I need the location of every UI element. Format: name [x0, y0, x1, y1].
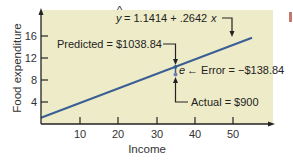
error-symbol: e [179, 64, 185, 76]
x-tick-label: 50 [227, 128, 239, 140]
x-tick-label: 20 [112, 128, 124, 140]
y-tick-label: 12 [25, 52, 37, 64]
predicted-point [174, 65, 178, 69]
x-tick-label: 10 [74, 128, 86, 140]
actual-label: Actual = $900 [191, 96, 259, 108]
equation-x: x [210, 12, 217, 24]
chart: 16 12 8 4 10 20 30 40 50 Income Food exp… [0, 0, 293, 161]
actual-point [174, 73, 178, 77]
y-tick-label: 4 [31, 96, 37, 108]
x-tick-label: 40 [189, 128, 201, 140]
error-label: ← Error = −$138.84 [187, 64, 284, 76]
y-axis-title: Food expenditure [11, 23, 23, 113]
equation-text: = 1.1414 + .2642 [124, 12, 207, 24]
edge-mark [289, 12, 292, 22]
x-axis-title: Income [128, 143, 166, 155]
predicted-label: Predicted = $1038.84 [57, 38, 162, 50]
y-tick-label: 8 [31, 74, 37, 86]
x-tick-label: 30 [151, 128, 163, 140]
error-annotation: e ← Error = −$138.84 [179, 64, 284, 76]
y-tick-label: 16 [25, 30, 37, 42]
